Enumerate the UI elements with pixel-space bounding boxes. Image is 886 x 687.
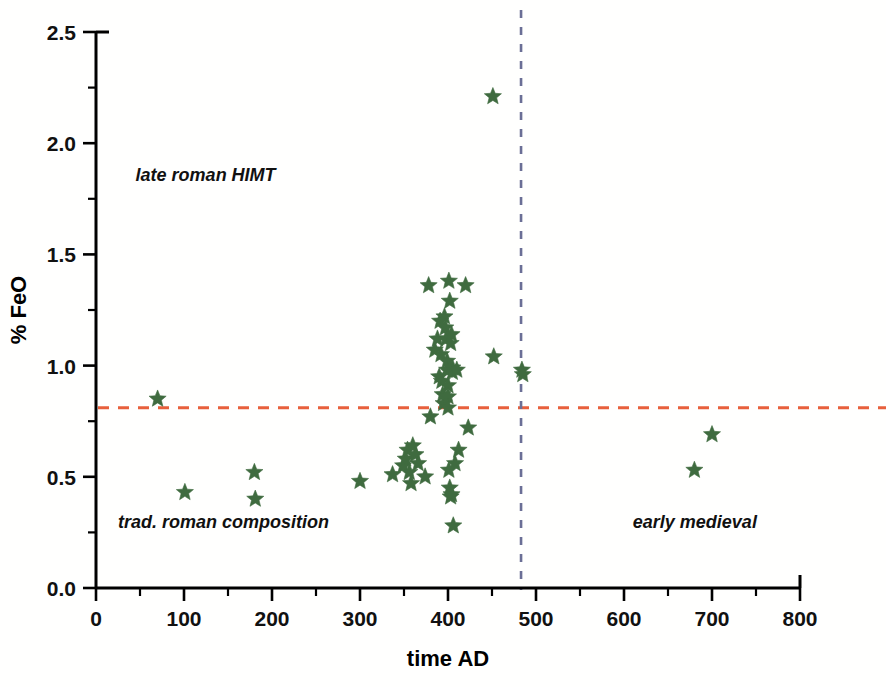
- scatter-plot: 01002003004005006007008000.00.51.01.52.0…: [0, 0, 886, 687]
- annotation-early-medieval: early medieval: [633, 512, 758, 532]
- data-point-star: [384, 466, 401, 482]
- y-tick-label: 0.5: [47, 466, 77, 489]
- data-point-star: [149, 390, 166, 406]
- x-tick-label: 800: [782, 607, 817, 630]
- y-tick-label: 2.0: [47, 132, 76, 155]
- x-tick-label: 100: [166, 607, 201, 630]
- data-point-star: [247, 490, 264, 506]
- figure-container: 01002003004005006007008000.00.51.01.52.0…: [0, 0, 886, 687]
- data-point-star: [422, 408, 439, 424]
- x-tick-label: 500: [518, 607, 553, 630]
- data-point-star: [176, 483, 193, 499]
- data-point-star: [457, 277, 474, 293]
- data-point-star: [417, 468, 434, 484]
- x-tick-label: 700: [694, 607, 729, 630]
- y-tick-label: 2.5: [47, 21, 77, 44]
- data-point-star: [351, 472, 368, 488]
- data-point-star: [441, 292, 458, 308]
- x-tick-label: 300: [342, 607, 377, 630]
- y-axis-title: % FeO: [6, 276, 31, 344]
- x-tick-label: 0: [90, 607, 102, 630]
- y-tick-label: 1.0: [47, 355, 76, 378]
- annotation-late-roman-himt: late roman HIMT: [136, 165, 278, 185]
- data-point-star: [484, 88, 501, 104]
- y-tick-label: 0.0: [47, 577, 76, 600]
- data-point-star: [246, 463, 263, 479]
- data-point-star: [420, 277, 437, 293]
- data-point-star: [703, 426, 720, 442]
- data-point-star: [485, 348, 502, 364]
- data-point-star: [445, 517, 462, 533]
- data-point-star: [450, 441, 467, 457]
- x-tick-label: 400: [430, 607, 465, 630]
- data-point-star: [460, 419, 477, 435]
- annotation-trad-roman-composition: trad. roman composition: [118, 512, 329, 532]
- y-tick-label: 1.5: [47, 243, 77, 266]
- data-point-star: [686, 461, 703, 477]
- data-point-star: [440, 272, 457, 288]
- x-axis-title: time AD: [407, 646, 489, 671]
- x-tick-label: 600: [606, 607, 641, 630]
- x-tick-label: 200: [254, 607, 289, 630]
